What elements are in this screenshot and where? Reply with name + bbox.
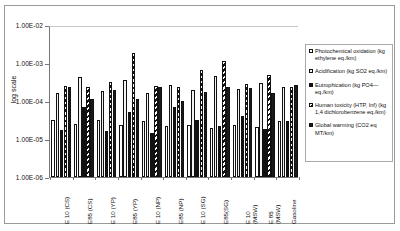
legend-swatch-icon	[309, 123, 313, 127]
bar	[128, 112, 131, 177]
bar	[68, 87, 71, 177]
bar	[237, 89, 240, 177]
bar	[64, 86, 67, 177]
bar	[105, 131, 108, 177]
bar	[177, 87, 180, 177]
bar	[136, 99, 139, 177]
bar	[97, 120, 100, 177]
bar	[123, 80, 126, 177]
bar	[271, 93, 274, 177]
bar-group	[186, 27, 209, 177]
x-axis-tick-labels: E 10 (CS)E85 (CS)E 10 (YP)E85 (YP)E 10 (…	[49, 180, 298, 226]
bar	[82, 107, 85, 177]
x-axis-tick-label: E85 (YP)	[131, 178, 138, 224]
legend-label: Eutrophication (kg PO4— eq./km)	[315, 82, 390, 96]
legend-swatch-icon	[309, 103, 313, 107]
y-axis-tick-label: 1.00E-06	[0, 174, 49, 181]
bar	[113, 90, 116, 177]
bar	[165, 126, 168, 177]
bar	[210, 128, 213, 177]
bar	[200, 70, 203, 177]
bar-group	[254, 27, 277, 177]
bar	[249, 88, 252, 177]
y-axis-tick-label: 1.00E-02	[0, 22, 49, 29]
x-axis-tick-label: E85 (CS)	[86, 178, 93, 224]
bar	[150, 133, 153, 177]
bar	[90, 99, 93, 177]
bar	[60, 130, 63, 177]
y-axis-tick-label: 1.00E-03	[0, 60, 49, 67]
x-axis-tick-label: Gasoline	[290, 178, 297, 224]
bar-group	[208, 27, 231, 177]
y-axis-tick-mark	[45, 178, 49, 179]
legend-item: Acidification (kg SO2 eq./km)	[309, 68, 390, 75]
x-axis-tick-label: E 85 (MSW)	[267, 178, 281, 224]
bar	[218, 126, 221, 177]
bar	[56, 93, 59, 177]
bar	[101, 91, 104, 177]
x-axis-tick-label: E 10 (NP)	[154, 178, 161, 224]
bar-group	[50, 27, 73, 177]
bar	[51, 120, 54, 177]
bar	[195, 120, 198, 177]
bar	[74, 124, 77, 177]
bar-group	[95, 27, 118, 177]
bar-group	[231, 27, 254, 177]
bar-group	[118, 27, 141, 177]
bar	[78, 77, 81, 177]
bar	[222, 61, 225, 177]
bar	[282, 87, 285, 177]
bar	[294, 85, 297, 177]
bar	[245, 84, 248, 177]
bar	[191, 90, 194, 177]
x-axis-tick-mark	[299, 177, 300, 180]
legend-item: Eutrophication (kg PO4— eq./km)	[309, 82, 390, 96]
bar	[255, 127, 258, 177]
bar	[169, 85, 172, 177]
y-axis-tick-label: 1.00E-04	[0, 98, 49, 105]
bar-group	[73, 27, 96, 177]
bar	[267, 75, 270, 177]
bar	[119, 125, 122, 177]
x-axis-tick-label: E85 (NP)	[177, 178, 184, 224]
bar	[226, 87, 229, 177]
x-axis-tick-label: E 10 (YP)	[109, 178, 116, 224]
bar	[278, 121, 281, 177]
bar	[158, 87, 161, 177]
bar	[214, 76, 217, 177]
bar	[109, 82, 112, 177]
legend-item: Global warming (CO2 eq MT/km)	[309, 122, 390, 136]
bar	[233, 125, 236, 177]
legend-label: Global warming (CO2 eq MT/km)	[315, 122, 390, 136]
bar	[187, 125, 190, 177]
legend-label: Human toxicity (HTP, Inf) (kg 1,4 dichlo…	[315, 102, 390, 116]
legend-label: Acidification (kg SO2 eq./km)	[315, 68, 390, 75]
bar	[204, 92, 207, 177]
bar	[146, 93, 149, 177]
bar	[154, 86, 157, 177]
bar	[290, 87, 293, 177]
plot-area	[49, 26, 298, 178]
x-axis-tick-label: E85(SG)	[222, 178, 229, 224]
bar	[142, 121, 145, 177]
bar	[241, 116, 244, 177]
bar	[86, 87, 89, 177]
bar	[181, 101, 184, 177]
bar	[263, 129, 266, 177]
chart-legend: Photochemical oxidation (kg ethylene eq.…	[305, 44, 393, 162]
bar	[259, 83, 262, 177]
x-axis-tick-label: E 10 (CS)	[63, 178, 70, 224]
y-axis-title: log scale	[10, 60, 17, 120]
y-axis-tick-label: 1.00E-05	[0, 136, 49, 143]
legend-swatch-icon	[309, 69, 313, 73]
legend-item: Photochemical oxidation (kg ethylene eq.…	[309, 48, 390, 62]
bar	[173, 107, 176, 177]
bar-group	[163, 27, 186, 177]
bar	[132, 53, 135, 177]
bar	[286, 121, 289, 177]
x-axis-tick-label: E 10 (MSW)	[244, 178, 258, 224]
x-axis-tick-label: E 10 (SG)	[199, 178, 206, 224]
legend-swatch-icon	[309, 49, 313, 53]
legend-item: Human toxicity (HTP, Inf) (kg 1,4 dichlo…	[309, 102, 390, 116]
chart-screenshot: 1.00E-021.00E-031.00E-041.00E-051.00E-06…	[0, 0, 400, 231]
